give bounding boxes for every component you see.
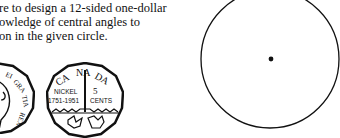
coin-king-portrait-image: EI GRA TIA REX bbox=[0, 62, 35, 134]
text-line-2: owledge of central angles to bbox=[0, 15, 167, 29]
svg-text:1751-1951: 1751-1951 bbox=[48, 97, 79, 104]
text-line-1: re to design a 12-sided one-dollar bbox=[0, 1, 167, 15]
text-line-3: on in the given circle. bbox=[0, 29, 167, 43]
svg-text:NA: NA bbox=[76, 67, 91, 78]
instruction-text: re to design a 12-sided one-dollar owled… bbox=[0, 1, 167, 43]
coin-canada-nickel-image: CA NA DA NICKEL 1751-1951 5 CENTS bbox=[46, 62, 124, 138]
circle-center-point bbox=[269, 57, 274, 62]
svg-text:5: 5 bbox=[93, 86, 98, 96]
svg-text:NICKEL: NICKEL bbox=[54, 88, 78, 95]
given-circle-diagram bbox=[200, 0, 340, 130]
svg-text:CENTS: CENTS bbox=[90, 97, 113, 104]
